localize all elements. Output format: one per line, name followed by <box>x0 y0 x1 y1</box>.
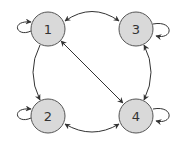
self-loop-2 <box>17 109 31 120</box>
node-3-label: 3 <box>132 22 140 37</box>
edge-2-4 <box>65 124 119 132</box>
node-1: 1 <box>31 12 65 46</box>
node-4-label: 4 <box>132 109 140 124</box>
edge-1-3 <box>65 12 119 22</box>
node-4: 4 <box>119 99 153 133</box>
node-2-label: 2 <box>44 109 52 124</box>
node-3: 3 <box>119 12 153 46</box>
self-loop-4 <box>153 108 169 121</box>
state-graph: 1 2 3 4 <box>0 0 184 141</box>
self-loop-3 <box>153 23 169 36</box>
edge-3-4 <box>144 45 151 100</box>
node-1-label: 1 <box>44 22 52 37</box>
edge-1-4 <box>61 41 123 103</box>
self-loop-1 <box>17 22 31 33</box>
node-2: 2 <box>31 99 65 133</box>
edge-1-2 <box>33 45 40 100</box>
